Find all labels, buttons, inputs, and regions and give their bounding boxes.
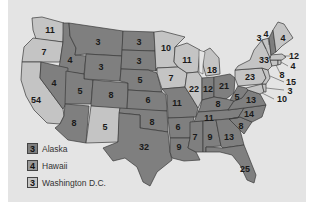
state-label-WY: 3 [98,62,103,72]
state-label-LA: 9 [176,142,181,152]
state-label-NV: 4 [51,78,56,88]
state-label-CA: 54 [31,95,41,105]
state-label-MN: 10 [161,43,171,53]
legend-swatch-alaska: 3 [27,143,38,154]
state-label-OK: 8 [149,117,154,127]
state-MA[interactable] [270,54,286,60]
state-label-WA: 11 [45,25,55,35]
state-label-GA: 13 [224,132,234,142]
state-label-NE: 5 [137,75,142,85]
state-RI[interactable] [278,60,281,65]
state-label-IA: 7 [168,73,173,83]
state-label-MT: 3 [95,37,100,47]
state-label-SD: 3 [136,56,141,66]
legend-label-hawaii: Hawaii [42,161,68,171]
electoral-map: 1175444335885335683210711691122181221811… [0,0,320,204]
state-label-FL: 25 [240,164,250,174]
state-label-MO: 11 [172,98,182,108]
state-label-OR: 7 [41,47,46,57]
state-label-MI: 18 [207,65,217,75]
state-label-WI: 11 [182,55,192,65]
state-label-WV: 5 [234,92,239,102]
state-label-ME: 4 [280,33,285,43]
state-label-AZ: 8 [71,118,76,128]
state-label-NM: 5 [102,122,107,132]
state-label-IN: 12 [203,84,213,94]
state-label-MD: 10 [277,94,287,104]
state-label-VA: 13 [246,95,256,105]
legend-swatch-hawaii: 4 [27,160,38,171]
state-label-ID: 4 [67,55,72,65]
legend-row-hawaii: 4 Hawaii [27,159,106,172]
state-label-OH: 21 [219,81,229,91]
legend-label-alaska: Alaska [42,144,68,154]
legend: 3 Alaska 4 Hawaii 3 Washington D.C. [27,142,106,193]
legend-swatch-dc: 3 [27,177,38,188]
state-label-UT: 5 [77,86,82,96]
state-label-ND: 3 [136,37,141,47]
state-label-RI: 4 [290,61,295,71]
state-label-NH: 4 [263,29,268,39]
state-label-TN: 11 [204,113,214,123]
state-label-SC: 8 [238,121,243,131]
state-label-IL: 22 [189,84,199,94]
state-label-CT: 8 [279,70,284,80]
state-label-CO: 8 [108,90,113,100]
state-label-MA: 12 [289,51,299,61]
state-label-TX: 32 [139,142,149,152]
state-label-NY: 33 [259,55,269,65]
state-label-AR: 6 [175,122,180,132]
state-label-NC: 14 [244,109,254,119]
state-label-KS: 6 [145,95,150,105]
state-label-VT: 3 [256,33,261,43]
state-label-PA: 23 [245,72,255,82]
legend-label-dc: Washington D.C. [42,178,106,188]
legend-row-alaska: 3 Alaska [27,142,106,155]
state-label-AL: 9 [207,132,212,142]
state-label-MS: 7 [192,132,197,142]
state-label-DE: 3 [287,86,292,96]
legend-row-dc: 3 Washington D.C. [27,176,106,189]
state-label-KY: 8 [215,99,220,109]
